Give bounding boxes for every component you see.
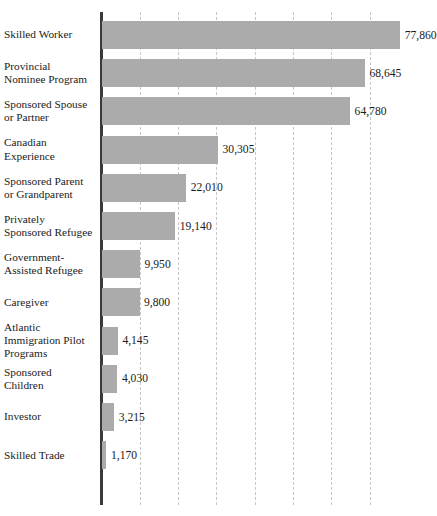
bar-row: Investor3,215 bbox=[0, 398, 422, 436]
category-label: Skilled Trade bbox=[4, 436, 96, 474]
bar bbox=[102, 21, 400, 49]
bar-row: PrivatelySponsored Refugee19,140 bbox=[0, 207, 422, 245]
category-label: Skilled Worker bbox=[4, 16, 96, 54]
bar-row: Sponsored Parentor Grandparent22,010 bbox=[0, 169, 422, 207]
category-label: SponsoredChildren bbox=[4, 360, 96, 398]
bar bbox=[102, 327, 118, 355]
category-label-line: Caregiver bbox=[4, 296, 96, 309]
bar-value-label: 77,860 bbox=[405, 16, 437, 54]
category-label-line: Government- bbox=[4, 251, 96, 264]
category-label-line: Skilled Trade bbox=[4, 449, 96, 462]
bar bbox=[102, 136, 218, 164]
bar bbox=[102, 174, 186, 202]
bar-value-label: 9,800 bbox=[144, 283, 170, 321]
bar-row: Government-Assisted Refugee9,950 bbox=[0, 245, 422, 283]
category-label-line: Programs bbox=[4, 347, 96, 360]
category-label: Sponsored Parentor Grandparent bbox=[4, 169, 96, 207]
bar-value-label: 1,170 bbox=[111, 436, 137, 474]
bar bbox=[102, 97, 350, 125]
category-label-line: or Partner bbox=[4, 111, 96, 124]
bar-value-label: 30,305 bbox=[223, 131, 255, 169]
category-label-line: Privately bbox=[4, 213, 96, 226]
bar-row: Caregiver9,800 bbox=[0, 283, 422, 321]
category-label: PrivatelySponsored Refugee bbox=[4, 207, 96, 245]
bar-value-label: 64,780 bbox=[355, 92, 387, 130]
category-label: Sponsored Spouseor Partner bbox=[4, 92, 96, 130]
bar-row: Skilled Worker77,860 bbox=[0, 16, 422, 54]
category-label-line: Skilled Worker bbox=[4, 28, 96, 41]
bar-value-label: 19,140 bbox=[180, 207, 212, 245]
category-label: Investor bbox=[4, 398, 96, 436]
category-label-line: Children bbox=[4, 379, 96, 392]
bar-value-label: 68,645 bbox=[369, 54, 401, 92]
category-label-line: Assisted Refugee bbox=[4, 264, 96, 277]
bar-row: Skilled Trade1,170 bbox=[0, 436, 422, 474]
bar-row: ProvincialNominee Program68,645 bbox=[0, 54, 422, 92]
bar bbox=[102, 441, 106, 469]
bar bbox=[102, 212, 175, 240]
bar bbox=[102, 59, 365, 87]
category-label-line: Sponsored Refugee bbox=[4, 226, 96, 239]
category-label: AtlanticImmigration PilotPrograms bbox=[4, 322, 96, 360]
category-label-line: Sponsored Spouse bbox=[4, 98, 96, 111]
category-label-line: Canadian bbox=[4, 136, 96, 149]
bar bbox=[102, 288, 140, 316]
category-label-line: Immigration Pilot bbox=[4, 334, 96, 347]
category-label-line: Sponsored Parent bbox=[4, 175, 96, 188]
bar-row: SponsoredChildren4,030 bbox=[0, 360, 422, 398]
category-label-line: Investor bbox=[4, 410, 96, 423]
bar-value-label: 9,950 bbox=[145, 245, 171, 283]
category-label-line: Sponsored bbox=[4, 366, 96, 379]
category-label-line: Atlantic bbox=[4, 321, 96, 334]
bar-value-label: 4,030 bbox=[122, 360, 148, 398]
bar bbox=[102, 403, 114, 431]
bar-row: AtlanticImmigration PilotPrograms4,145 bbox=[0, 322, 422, 360]
category-label-line: or Grandparent bbox=[4, 188, 96, 201]
bar-row: CanadianExperience30,305 bbox=[0, 131, 422, 169]
bar-row: Sponsored Spouseor Partner64,780 bbox=[0, 92, 422, 130]
category-label: ProvincialNominee Program bbox=[4, 54, 96, 92]
bar-value-label: 3,215 bbox=[119, 398, 145, 436]
category-label-line: Nominee Program bbox=[4, 73, 96, 86]
category-label: CanadianExperience bbox=[4, 131, 96, 169]
category-label: Caregiver bbox=[4, 283, 96, 321]
bar bbox=[102, 365, 117, 393]
category-label: Government-Assisted Refugee bbox=[4, 245, 96, 283]
bar-value-label: 22,010 bbox=[191, 169, 223, 207]
category-label-line: Provincial bbox=[4, 60, 96, 73]
bar-value-label: 4,145 bbox=[122, 322, 148, 360]
category-label-line: Experience bbox=[4, 150, 96, 163]
bar bbox=[102, 250, 140, 278]
